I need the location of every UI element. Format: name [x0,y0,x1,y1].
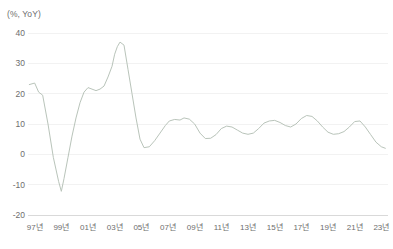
x-tick-label: 11년 [214,221,229,232]
x-tick-label: 07년 [160,221,176,232]
x-tick-label: 01년 [80,221,96,232]
x-tick-label: 09년 [187,221,203,232]
x-tick-label: 23년 [373,221,389,232]
x-tick-label: 19년 [320,221,336,232]
series-path [29,42,385,191]
series-line [28,33,388,215]
x-tick-label: 05년 [133,221,149,232]
plot-area [28,33,388,215]
x-tick-label: 15년 [267,221,283,232]
x-tick-label: 03년 [107,221,123,232]
x-tick-label: 17년 [293,221,309,232]
x-tick-label: 99년 [53,221,69,232]
x-tick-label: 97년 [27,221,43,232]
chart-container: (%, YoY) 403020100-10-20 97년99년01년03년05년… [0,0,393,249]
x-tick-label: 21년 [347,221,363,232]
x-tick-label: 13년 [240,221,256,232]
